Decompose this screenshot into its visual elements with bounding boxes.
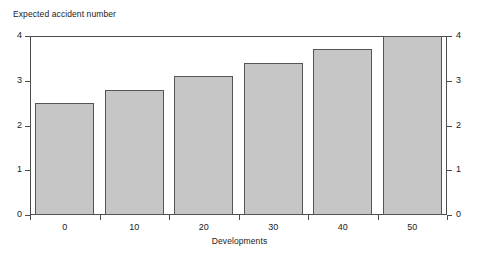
y-tick-label-right: 3 [456, 75, 472, 85]
y-tick-right [447, 170, 452, 171]
y-tick-left [25, 36, 30, 37]
y-tick-left [25, 126, 30, 127]
bar-chart-figure: Expected accident number 01234 01234 010… [0, 0, 479, 260]
x-tick-label: 40 [323, 222, 363, 232]
bar [313, 49, 372, 215]
y-tick-label-left: 1 [6, 164, 22, 174]
x-tick-label: 20 [184, 222, 224, 232]
x-tick [100, 215, 101, 220]
y-tick-label-left: 0 [6, 209, 22, 219]
x-tick [378, 215, 379, 220]
x-tick-label: 50 [392, 222, 432, 232]
bar [244, 63, 303, 215]
x-tick-label: 10 [114, 222, 154, 232]
y-tick-label-right: 0 [456, 209, 472, 219]
y-tick-label-left: 3 [6, 75, 22, 85]
y-tick-right [447, 81, 452, 82]
y-tick-label-right: 1 [456, 164, 472, 174]
x-tick [447, 215, 448, 220]
y-tick-label-right: 2 [456, 120, 472, 130]
x-tick [308, 215, 309, 220]
bar [35, 103, 94, 215]
x-tick-label: 30 [253, 222, 293, 232]
x-tick [239, 215, 240, 220]
y-tick-label-left: 4 [6, 30, 22, 40]
bars-layer [30, 36, 447, 215]
y-tick-label-right: 4 [456, 30, 472, 40]
x-tick [169, 215, 170, 220]
y-tick-right [447, 36, 452, 37]
bar [174, 76, 233, 215]
x-tick [30, 215, 31, 220]
y-tick-left [25, 81, 30, 82]
y-tick-right [447, 126, 452, 127]
y-axis-title: Expected accident number [13, 9, 116, 19]
y-tick-label-left: 2 [6, 120, 22, 130]
bar [105, 90, 164, 215]
y-tick-left [25, 170, 30, 171]
x-tick-label: 0 [45, 222, 85, 232]
bar [383, 36, 442, 215]
x-axis-title: Developments [0, 236, 479, 246]
